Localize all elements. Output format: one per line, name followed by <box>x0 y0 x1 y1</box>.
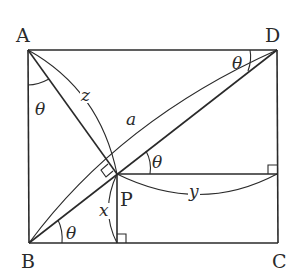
label-theta-b: θ <box>66 223 76 243</box>
label-theta-a: θ <box>35 99 45 119</box>
label-theta-d: θ <box>232 53 242 73</box>
angle-arc-d <box>248 50 251 71</box>
label-a: a <box>126 109 136 129</box>
label-x: x <box>99 200 109 220</box>
angle-arc-b <box>58 220 62 243</box>
label-z: z <box>80 85 91 105</box>
diagonal-bd <box>29 50 277 243</box>
label-vertex-d: D <box>265 24 280 46</box>
geometry-diagram: A D B C P z a x y θ θ θ θ <box>0 0 302 280</box>
label-theta-p: θ <box>152 152 162 172</box>
label-vertex-a: A <box>15 24 30 46</box>
label-y: y <box>188 181 199 201</box>
side-dc <box>277 50 278 243</box>
angle-arc-p <box>146 151 151 174</box>
side-ab <box>28 50 29 243</box>
label-vertex-c: C <box>272 250 287 272</box>
label-point-p: P <box>120 188 133 210</box>
right-angle-marker-foot <box>117 234 126 243</box>
label-vertex-b: B <box>21 250 35 272</box>
right-angle-marker-dc <box>268 165 277 174</box>
angle-arc-a <box>28 79 49 85</box>
